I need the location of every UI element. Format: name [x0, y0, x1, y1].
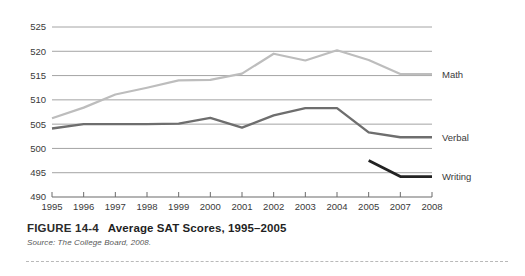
x-tick-label: 1998 [136, 201, 157, 212]
y-tick-label: 500 [30, 143, 46, 154]
x-axis-tick-labels: 1995199619971998199920002001200220032004… [41, 201, 442, 212]
bottom-divider [26, 261, 508, 262]
x-tick-label: 2000 [200, 201, 221, 212]
x-tick-label: 2007 [390, 201, 411, 212]
figure-caption: FIGURE 14-4 Average SAT Scores, 1995–200… [27, 222, 507, 247]
x-tick-label: 1999 [168, 201, 189, 212]
series-line-math [52, 50, 432, 118]
x-tick-label: 1997 [105, 201, 126, 212]
x-tick-label: 2003 [295, 201, 316, 212]
series-line-verbal [52, 108, 432, 137]
caption-line: FIGURE 14-4 Average SAT Scores, 1995–200… [27, 222, 507, 234]
series-inline-labels: MathVerbalWriting [442, 69, 471, 182]
x-tick-label: 2005 [358, 201, 379, 212]
x-tick-label: 1996 [73, 201, 94, 212]
gridlines [52, 27, 432, 173]
x-tick-label: 1995 [41, 201, 62, 212]
x-tick-label: 2008 [421, 201, 442, 212]
y-tick-label: 515 [30, 70, 46, 81]
y-tick-label: 495 [30, 167, 46, 178]
y-tick-label: 525 [30, 21, 46, 32]
y-axis-tick-labels: 490495500505510515520525 [30, 21, 46, 202]
figure-title: Average SAT Scores, 1995–2005 [108, 222, 287, 234]
y-tick-label: 510 [30, 94, 46, 105]
chart-plot-area: 490495500505510515520525 199519961997199… [0, 0, 525, 215]
x-tick-label: 2001 [231, 201, 252, 212]
figure-number: FIGURE 14-4 [27, 222, 99, 234]
series-label-math: Math [442, 69, 463, 80]
series-label-writing: Writing [442, 171, 471, 182]
figure-container: 490495500505510515520525 199519961997199… [0, 0, 525, 276]
line-chart: 490495500505510515520525 199519961997199… [0, 0, 525, 215]
series-line-writing [369, 161, 432, 177]
series-label-verbal: Verbal [442, 132, 469, 143]
data-series [52, 50, 432, 176]
x-axis-ticks [52, 192, 432, 197]
x-tick-label: 2004 [326, 201, 347, 212]
y-tick-label: 505 [30, 119, 46, 130]
y-tick-label: 520 [30, 46, 46, 57]
x-tick-label: 2002 [263, 201, 284, 212]
figure-source: Source: The College Board, 2008. [27, 238, 507, 247]
